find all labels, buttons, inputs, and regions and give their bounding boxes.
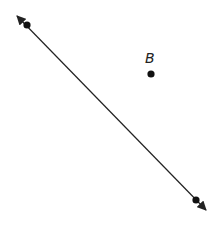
- diagram-svg: B: [0, 0, 220, 226]
- point-b: [147, 70, 154, 77]
- line-point-lower: [192, 196, 199, 203]
- point-b-label: B: [145, 50, 155, 66]
- line-point-upper: [23, 21, 30, 28]
- geometry-diagram: B: [0, 0, 220, 226]
- line-with-arrows: [17, 16, 206, 210]
